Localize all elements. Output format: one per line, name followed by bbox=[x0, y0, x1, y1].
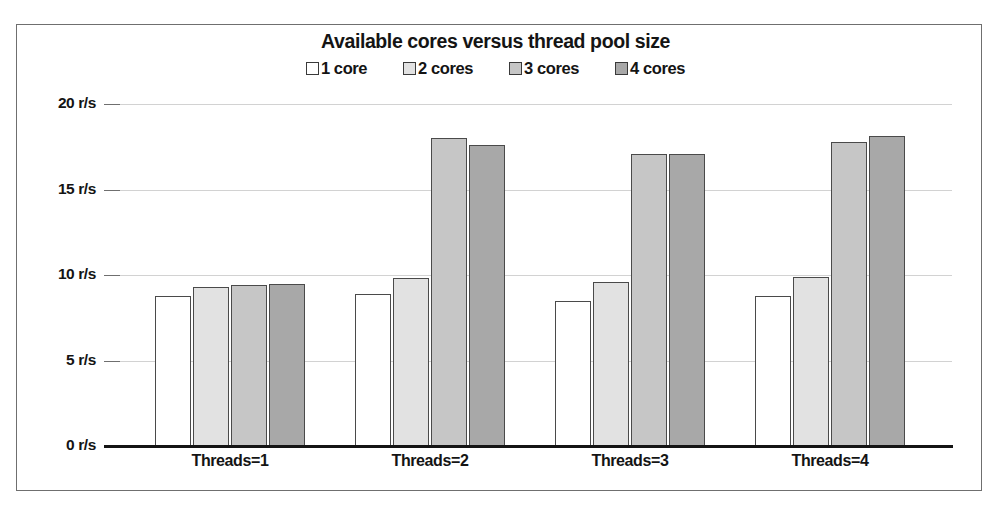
x-axis-label-group-4: Threads=4 bbox=[750, 452, 910, 470]
bar-threads-4-3-cores bbox=[831, 142, 867, 446]
bar-threads-4-1-core bbox=[755, 296, 791, 446]
y-tick-label: 20 r/s bbox=[0, 94, 96, 112]
bar-threads-3-3-cores bbox=[631, 154, 667, 446]
bar-threads-2-2-cores bbox=[393, 278, 429, 446]
chart-figure: Available cores versus thread pool size … bbox=[0, 0, 991, 506]
x-axis-baseline bbox=[104, 445, 953, 448]
x-axis-label-group-1: Threads=1 bbox=[150, 452, 310, 470]
y-tick-label: 5 r/s bbox=[0, 351, 96, 369]
bar-threads-2-4-cores bbox=[469, 145, 505, 446]
bar-threads-2-3-cores bbox=[431, 138, 467, 446]
bar-threads-2-1-core bbox=[355, 294, 391, 446]
y-tick-mark bbox=[104, 104, 120, 105]
gridline bbox=[112, 190, 952, 191]
bar-threads-3-1-core bbox=[555, 301, 591, 446]
y-tick-mark bbox=[104, 361, 120, 362]
bar-threads-1-3-cores bbox=[231, 285, 267, 446]
bar-threads-3-2-cores bbox=[593, 282, 629, 446]
x-axis-label-group-2: Threads=2 bbox=[350, 452, 510, 470]
y-tick-label: 15 r/s bbox=[0, 180, 96, 198]
bar-threads-1-2-cores bbox=[193, 287, 229, 446]
x-axis-label-group-3: Threads=3 bbox=[550, 452, 710, 470]
bar-threads-4-4-cores bbox=[869, 136, 905, 446]
y-tick-mark bbox=[104, 190, 120, 191]
bar-threads-4-2-cores bbox=[793, 277, 829, 446]
bar-threads-1-1-core bbox=[155, 296, 191, 446]
y-tick-mark bbox=[104, 275, 120, 276]
y-tick-label: 10 r/s bbox=[0, 265, 96, 283]
bar-threads-1-4-cores bbox=[269, 284, 305, 446]
plot-area: 0 r/s5 r/s10 r/s15 r/s20 r/s Threads=1Th… bbox=[0, 0, 991, 506]
bar-threads-3-4-cores bbox=[669, 154, 705, 446]
gridline bbox=[112, 104, 952, 105]
y-tick-label: 0 r/s bbox=[0, 436, 96, 454]
